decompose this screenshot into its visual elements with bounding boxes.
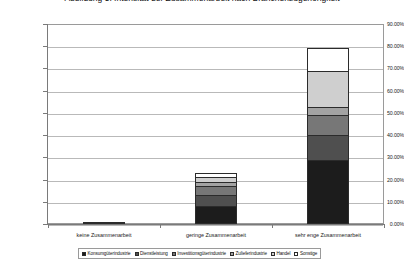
legend-item: Sonstige: [294, 251, 317, 256]
x-axis-tick-label: geringe Zusammenarbeit: [160, 232, 272, 238]
legend-item: Handel: [271, 251, 291, 256]
legend-swatch-icon: [135, 252, 139, 256]
y-axis-tick-mark: [43, 180, 47, 181]
chart-title-strip: Abbildung 5: Intensität der Zusammenarbe…: [0, 0, 404, 11]
y-axis-tick-mark: [43, 68, 47, 69]
page-title: Abbildung 5: Intensität der Zusammenarbe…: [64, 0, 339, 3]
legend-item-label: Sonstige: [300, 251, 317, 256]
legend-swatch-icon: [271, 252, 275, 256]
legend-item-label: Zulieferindustrie: [236, 251, 267, 256]
bar-segment: [195, 206, 237, 224]
legend-item-label: Handel: [276, 251, 290, 256]
bar-segment: [83, 222, 125, 224]
gridline: [48, 225, 383, 226]
bar-segment: [307, 135, 349, 159]
bars-layer: [48, 24, 384, 224]
legend-swatch-icon: [230, 252, 234, 256]
legend-item: Investitionsgüterindustrie: [172, 251, 226, 256]
bar-column: [195, 24, 237, 224]
legend-item-label: Dienstleistung: [140, 251, 168, 256]
x-axis-line: [47, 224, 384, 225]
x-axis-tick-mark: [272, 224, 273, 228]
y-axis-tick-mark: [43, 202, 47, 203]
legend-item: Zulieferindustrie: [230, 251, 267, 256]
bar-segment: [307, 48, 349, 70]
x-axis-tick-mark: [48, 224, 49, 228]
chart-container: Abbildung 5: Intensität der Zusammenarbe…: [0, 0, 404, 263]
bar-segment: [195, 182, 237, 186]
y-axis-tick-mark: [43, 157, 47, 158]
bar-segment: [307, 160, 349, 224]
bar-column: [83, 24, 125, 224]
bar-column: [307, 24, 349, 224]
legend-swatch-icon: [82, 252, 86, 256]
y-axis-tick-mark: [43, 135, 47, 136]
bar-segment: [307, 115, 349, 135]
legend-item-label: Investitionsgüterindustrie: [177, 251, 226, 256]
y-axis-tick-mark: [43, 113, 47, 114]
y-axis-tick-mark: [43, 46, 47, 47]
chart-legend: KonsumgüterindustrieDienstleistungInvest…: [78, 248, 321, 259]
bar-segment: [195, 195, 237, 206]
bar-segment: [195, 186, 237, 195]
legend-item: Dienstleistung: [135, 251, 168, 256]
legend-item: Konsumgüterindustrie: [82, 251, 131, 256]
legend-swatch-icon: [172, 252, 176, 256]
bar-segment: [307, 107, 349, 115]
y-axis-tick-mark: [43, 224, 47, 225]
y-axis-tick-mark: [43, 24, 47, 25]
y-axis-tick-mark: [43, 91, 47, 92]
x-axis-tick-label: sehr enge Zusammenarbeit: [272, 232, 384, 238]
bar-segment: [195, 173, 237, 177]
legend-item-label: Konsumgüterindustrie: [88, 251, 131, 256]
x-axis-tick-mark: [384, 224, 385, 228]
x-axis-tick-mark: [160, 224, 161, 228]
bar-segment: [195, 177, 237, 181]
bar-segment: [307, 71, 349, 108]
legend-swatch-icon: [294, 252, 298, 256]
x-axis-tick-label: keine Zusammenarbeit: [48, 232, 160, 238]
